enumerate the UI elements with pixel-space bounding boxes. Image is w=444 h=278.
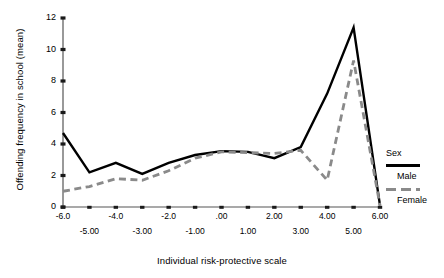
chart-figure: Offending frequency in school (mean) Ind… — [0, 0, 444, 278]
x-tick-label: .00 — [200, 212, 244, 221]
x-tick-mark — [87, 206, 91, 209]
x-tick-label: -1.00 — [173, 227, 217, 236]
x-tick-label: -3.00 — [120, 227, 164, 236]
x-tick-mark — [193, 206, 197, 209]
x-tick-label: 3.00 — [279, 227, 323, 236]
x-tick-mark — [114, 206, 118, 209]
x-tick-mark — [325, 206, 329, 209]
x-tick-label: 1.00 — [226, 227, 270, 236]
y-tick-mark — [61, 111, 66, 114]
y-tick-mark — [61, 79, 66, 82]
y-tick-label: 12 — [30, 13, 56, 22]
x-tick-label: -5.00 — [67, 227, 111, 236]
x-tick-label: 2.00 — [252, 212, 296, 221]
x-tick-label: 5.00 — [332, 227, 376, 236]
legend-swatch-female — [386, 185, 444, 194]
series-line-male — [63, 27, 380, 205]
x-tick-mark — [219, 206, 223, 209]
dashed-line-icon — [386, 188, 420, 191]
y-tick-label: 2 — [30, 171, 56, 180]
plot-area — [0, 0, 444, 278]
legend-label-female: Female — [397, 195, 444, 205]
y-tick-label: 0 — [30, 202, 56, 211]
y-tick-mark — [61, 142, 66, 145]
x-tick-mark — [246, 206, 250, 209]
x-tick-mark — [351, 206, 355, 209]
legend: Sex Male Female — [386, 148, 444, 209]
x-tick-mark — [272, 206, 276, 209]
x-tick-mark — [140, 206, 144, 209]
legend-label-male: Male — [397, 171, 444, 181]
y-tick-label: 10 — [30, 45, 56, 54]
y-tick-mark — [61, 16, 66, 19]
y-tick-mark — [61, 48, 66, 51]
axes — [63, 18, 380, 207]
y-tick-label: 6 — [30, 108, 56, 117]
y-tick-mark — [61, 174, 66, 177]
legend-swatch-male — [386, 161, 444, 170]
y-tick-label: 4 — [30, 139, 56, 148]
x-tick-mark — [166, 206, 170, 209]
x-tick-label: 4.00 — [305, 212, 349, 221]
x-tick-label: -4.0 — [94, 212, 138, 221]
x-tick-label: -2.0 — [147, 212, 191, 221]
x-tick-mark — [378, 206, 382, 209]
x-tick-label: -6.0 — [41, 212, 85, 221]
x-tick-mark — [299, 206, 303, 209]
x-tick-label: 6.00 — [358, 212, 402, 221]
x-tick-mark — [61, 206, 65, 209]
solid-line-icon — [386, 164, 420, 167]
legend-title: Sex — [386, 148, 444, 158]
y-tick-label: 8 — [30, 76, 56, 85]
